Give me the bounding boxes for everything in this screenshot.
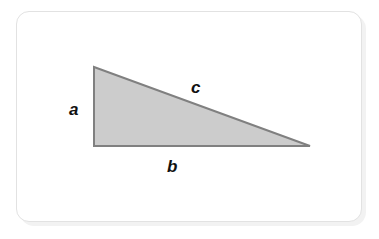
label-side-a: a xyxy=(69,101,78,118)
triangle-svg xyxy=(0,0,379,239)
right-triangle-shape xyxy=(94,67,310,146)
screenshot-root: a b c xyxy=(0,0,379,239)
label-side-c: c xyxy=(191,79,200,96)
label-side-b: b xyxy=(167,158,177,175)
triangle-diagram: a b c xyxy=(0,0,379,239)
